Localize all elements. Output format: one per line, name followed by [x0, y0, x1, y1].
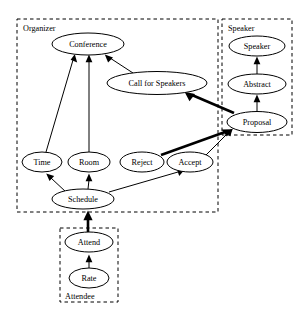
node-accept[interactable]: Accept: [167, 152, 213, 172]
edge-attend-to-schedule: [83, 211, 92, 233]
edge-room-to-conference: [86, 55, 93, 153]
cluster-attendee-label: Attendee: [65, 292, 95, 301]
cluster-speaker-label: Speaker: [228, 24, 255, 33]
node-attend[interactable]: Attend: [65, 232, 113, 252]
edge-schedule-to-room: [86, 174, 93, 190]
edge-rate-to-attend: [86, 255, 93, 269]
node-accept-label: Accept: [178, 158, 202, 167]
node-abstract-label: Abstract: [243, 80, 271, 89]
edge-abstract-to-speaker: [254, 57, 261, 75]
edge-time-to-conference: [46, 54, 77, 152]
node-room-label: Room: [79, 158, 100, 167]
edge-callforspeakers-to-conference: [105, 55, 133, 73]
node-speaker[interactable]: Speaker: [229, 36, 285, 56]
node-speaker-label: Speaker: [244, 42, 271, 51]
diagram-svg: Organizer Speaker Attendee: [0, 0, 299, 322]
edge-schedule-to-accept: [109, 169, 185, 192]
edge-proposal-to-callforspeakers: [185, 92, 235, 113]
edge-reject-to-proposal: [161, 129, 233, 155]
node-call-for-speakers-label: Call for Speakers: [129, 79, 186, 88]
node-time-label: Time: [34, 158, 51, 167]
node-rate-label: Rate: [81, 274, 96, 283]
node-reject[interactable]: Reject: [120, 152, 164, 172]
node-rate[interactable]: Rate: [69, 268, 109, 288]
node-room[interactable]: Room: [68, 152, 110, 172]
node-reject-label: Reject: [132, 158, 154, 167]
node-schedule-label: Schedule: [68, 195, 98, 204]
node-conference[interactable]: Conference: [52, 33, 124, 55]
edge-accept-to-proposal: [206, 129, 233, 156]
node-time[interactable]: Time: [22, 152, 62, 172]
cluster-organizer-label: Organizer: [23, 24, 56, 33]
diagram-canvas: Organizer Speaker Attendee: [0, 0, 299, 322]
node-schedule[interactable]: Schedule: [52, 189, 114, 209]
node-conference-label: Conference: [69, 40, 107, 49]
node-call-for-speakers[interactable]: Call for Speakers: [107, 72, 207, 95]
node-abstract[interactable]: Abstract: [228, 74, 286, 94]
edge-schedule-to-time: [46, 174, 66, 193]
edge-proposal-to-abstract: [254, 95, 261, 112]
node-attend-label: Attend: [78, 238, 100, 247]
node-proposal[interactable]: Proposal: [227, 112, 287, 133]
node-proposal-label: Proposal: [243, 118, 272, 127]
